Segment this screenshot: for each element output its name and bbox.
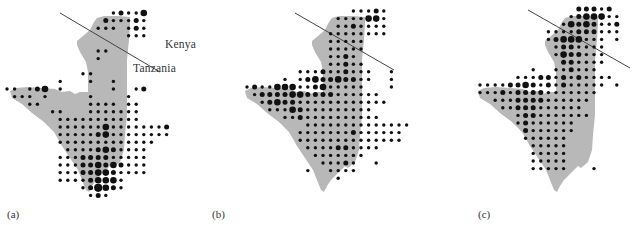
density-dot <box>299 85 302 88</box>
density-dot <box>375 93 378 96</box>
density-dot <box>164 125 169 130</box>
density-dot <box>142 171 145 174</box>
density-dot <box>112 118 115 121</box>
density-dot <box>375 146 378 149</box>
density-dot <box>592 91 595 94</box>
density-dot <box>104 118 107 121</box>
density-dot <box>367 9 370 12</box>
density-dot <box>111 185 116 190</box>
density-dot <box>343 69 348 74</box>
density-dot <box>103 147 110 154</box>
density-dot <box>112 27 115 30</box>
density-dot <box>290 100 295 105</box>
density-dot <box>97 125 100 128</box>
density-dot <box>337 47 340 50</box>
density-dot <box>112 141 115 144</box>
density-dot <box>298 115 303 120</box>
density-dot <box>134 18 139 23</box>
density-dot <box>329 70 332 73</box>
density-dot <box>570 99 573 102</box>
density-dot <box>577 99 580 102</box>
density-dot <box>608 23 611 26</box>
density-dot <box>119 118 122 121</box>
density-dot <box>375 116 378 119</box>
density-dot <box>13 87 16 90</box>
density-dot <box>592 61 595 64</box>
density-dot <box>337 131 340 134</box>
density-dot <box>352 62 355 65</box>
density-dot <box>306 123 309 126</box>
density-dot <box>306 131 309 134</box>
density-dot <box>276 108 279 111</box>
density-dot <box>157 125 160 128</box>
density-dot <box>397 123 400 126</box>
density-dot <box>89 80 92 83</box>
density-dot <box>577 91 580 94</box>
density-dot <box>585 83 588 86</box>
density-dot <box>289 84 296 91</box>
density-dot <box>562 68 565 71</box>
density-dot <box>367 70 370 73</box>
density-dot <box>104 49 107 52</box>
density-dot <box>562 144 565 147</box>
density-dot <box>103 131 110 138</box>
density-dot <box>390 139 393 142</box>
density-dot <box>382 17 385 20</box>
density-dot <box>81 141 84 144</box>
density-dot <box>608 76 611 79</box>
density-dot <box>585 53 588 56</box>
density-dot <box>478 83 481 86</box>
density-dot <box>351 130 356 135</box>
density-dot <box>547 137 550 140</box>
density-dot <box>576 36 583 43</box>
density-dot <box>570 114 573 117</box>
density-dot <box>274 84 281 91</box>
density-dot <box>81 163 86 168</box>
density-dot <box>313 85 318 90</box>
density-dot <box>375 101 378 104</box>
density-dot <box>352 154 355 157</box>
density-dot <box>329 139 332 142</box>
density-dot <box>337 101 340 104</box>
density-dot <box>329 108 332 111</box>
density-dot <box>97 57 100 60</box>
density-dot <box>569 52 574 57</box>
density-dot <box>150 125 153 128</box>
density-dot <box>375 131 378 134</box>
density-dot <box>142 156 145 159</box>
density-dot <box>135 11 138 14</box>
density-dot <box>74 171 77 174</box>
density-dot <box>112 87 115 90</box>
density-dot <box>382 123 385 126</box>
density-dot <box>382 101 385 104</box>
density-dot <box>577 68 580 71</box>
density-dot <box>576 22 581 27</box>
density-dot <box>66 118 69 121</box>
density-dot <box>97 49 100 52</box>
density-dot <box>600 23 603 26</box>
density-dot <box>561 60 566 65</box>
density-dot <box>554 144 557 147</box>
density-dot <box>321 139 324 142</box>
density-dot <box>359 93 362 96</box>
density-dot <box>314 154 317 157</box>
density-dot <box>585 76 588 79</box>
density-dot <box>81 72 84 75</box>
density-dot <box>329 32 332 35</box>
density-dot <box>359 85 362 88</box>
density-dot <box>524 76 527 79</box>
density-dot <box>532 167 535 170</box>
density-dot <box>539 114 542 117</box>
density-dot <box>576 52 581 57</box>
panel-b-map <box>245 9 408 193</box>
density-dot <box>539 152 542 155</box>
density-dot <box>598 13 605 20</box>
density-dot <box>268 108 271 111</box>
density-dot <box>570 83 573 86</box>
density-dot <box>538 75 543 80</box>
density-dot <box>94 184 102 192</box>
density-dot <box>320 84 327 91</box>
density-dot <box>538 98 543 103</box>
density-dot <box>321 123 324 126</box>
density-dot <box>329 131 332 134</box>
